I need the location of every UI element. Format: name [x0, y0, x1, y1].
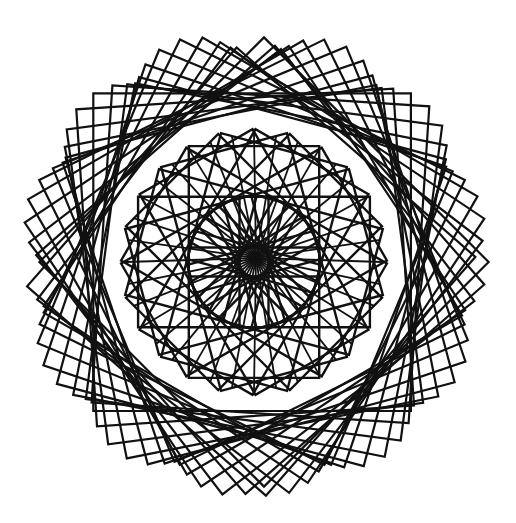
spirograph-drawing — [0, 0, 516, 523]
spirograph-canvas — [0, 0, 516, 523]
spoke-line — [254, 134, 256, 258]
center-spokes — [126, 134, 382, 390]
spoke-line — [256, 258, 365, 326]
